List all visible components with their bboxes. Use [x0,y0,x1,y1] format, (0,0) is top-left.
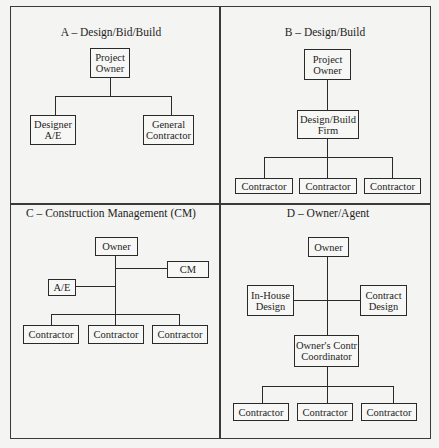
connector [262,386,394,387]
vertical-divider [219,6,221,439]
box-label: Designer [34,119,72,130]
connector [327,367,328,403]
panel-a-title: A – Design/Bid/Build [61,26,161,38]
connector [264,157,393,158]
connector [179,314,180,325]
box-label: Owner's Contr [296,340,357,351]
connector [327,80,328,110]
box-label: Contract [365,290,401,301]
box-label: Contractor [146,130,191,141]
design-build-firm-box: Design/Build Firm [297,110,359,139]
owners-contr-coordinator-box: Owner's Contr Coordinator [294,335,359,367]
panel-c-title: C – Construction Management (CM) [26,207,196,219]
connector [327,257,328,335]
contractor-box: Contractor [364,178,421,194]
connector [55,96,172,97]
box-label: Design [256,301,286,312]
panel-d-title: D – Owner/Agent [287,207,369,219]
connector [327,139,328,157]
connector [264,157,265,178]
horizontal-divider [10,203,431,205]
contractor-box: Contractor [88,325,144,344]
box-label: Project [95,52,125,63]
box-label: Owner [96,63,125,74]
contract-design-box: Contract Design [360,285,407,316]
contractor-box: Contractor [361,403,417,421]
owner-box: Owner [308,237,349,257]
general-contractor-box: General Contractor [143,115,194,145]
connector [393,386,394,403]
diagram-frame [10,6,431,439]
cm-box: CM [167,261,209,278]
box-label: In-House [251,290,290,301]
connector [110,78,111,97]
contractor-box: Contractor [235,178,293,194]
box-label: Firm [318,125,338,136]
contractor-box: Contractor [233,403,289,421]
project-owner-box: Project Owner [90,48,130,78]
connector [51,314,52,325]
connector [115,268,167,269]
designer-box: Designer A/E [30,115,76,145]
contractor-box: Contractor [297,403,353,421]
box-label: Design [369,301,399,312]
connector [171,96,172,115]
box-label: General [152,119,185,130]
connector [392,157,393,178]
in-house-design-box: In-House Design [247,285,294,316]
connector [51,314,180,315]
connector [262,386,263,403]
project-owner-box: Project Owner [304,49,351,80]
box-label: Coordinator [301,351,352,362]
connector [293,300,360,301]
panel-b-title: B – Design/Build [285,26,366,38]
contractor-box: Contractor [23,325,79,344]
box-label: Project [313,54,343,65]
contractor-box: Contractor [299,178,357,194]
box-label: Owner [313,65,342,76]
connector [55,96,56,115]
contractor-box: Contractor [152,325,208,344]
box-label: Design/Build [300,114,356,125]
connector [327,157,328,178]
ae-box: A/E [48,279,76,296]
owner-box: Owner [95,237,138,256]
box-label: A/E [45,130,62,141]
connector [76,286,116,287]
